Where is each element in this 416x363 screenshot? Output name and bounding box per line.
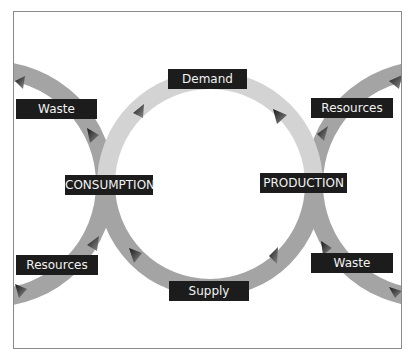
consumption-node: CONSUMPTION [65,175,153,195]
right-resources-label: Resources [311,98,393,118]
production-node: PRODUCTION [260,173,347,193]
left-waste-label: Waste [16,99,97,119]
demand-label: Demand [168,69,247,89]
right-waste-label: Waste [311,253,393,273]
diagram-frame: Demand Waste Resources CONSUMPTION PRODU… [13,11,402,349]
supply-arc [106,184,314,288]
left-resources-label: Resources [16,255,98,275]
demand-arc [106,80,314,184]
supply-label: Supply [169,281,249,301]
